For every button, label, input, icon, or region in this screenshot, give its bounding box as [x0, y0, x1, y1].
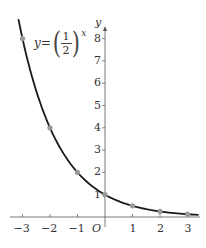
x-tick-label: −1	[69, 223, 85, 234]
fraction: 1 2	[61, 30, 72, 57]
y-tick-label: 6	[94, 77, 101, 88]
y-tick-label: 8	[94, 33, 101, 44]
x-tick-label: −3	[14, 223, 30, 234]
formula-lhs: y=	[34, 36, 51, 50]
data-point	[75, 170, 80, 175]
data-point	[157, 209, 162, 214]
y-axis-arrow-icon	[103, 26, 107, 31]
left-paren: (	[53, 28, 61, 58]
y-tick-label: 4	[94, 122, 101, 133]
x-tick-label: 2	[157, 223, 164, 234]
x-tick-label: 1	[130, 223, 137, 234]
y-axis-label: y	[95, 17, 101, 28]
origin-label: O	[92, 223, 101, 234]
y-tick-label: 5	[94, 100, 101, 111]
x-tick-label: 3	[185, 223, 192, 234]
data-point	[47, 125, 52, 130]
data-point	[130, 203, 135, 208]
y-tick-label: 2	[94, 166, 101, 177]
data-point	[102, 192, 107, 197]
right-paren: )	[71, 28, 79, 58]
data-point	[185, 212, 190, 217]
fraction-denominator: 2	[63, 44, 70, 57]
y-tick-label: 1	[94, 189, 101, 200]
fraction-numerator: 1	[61, 30, 72, 44]
formula-exponent: x	[81, 28, 86, 38]
x-tick-label: −2	[41, 223, 57, 234]
plot-area	[0, 0, 206, 248]
y-tick-label: 7	[94, 55, 101, 66]
y-tick-label: 3	[94, 144, 101, 155]
data-point	[20, 36, 25, 41]
function-label: y= ( 1 2 ) x	[34, 28, 86, 58]
